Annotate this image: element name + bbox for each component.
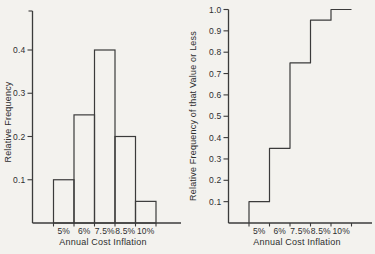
x-tick-label: 7.5%: [290, 226, 310, 236]
frequency-bar: [54, 180, 75, 223]
y-tick-label: 0.7: [209, 69, 221, 79]
y-tick-label: 0.5: [209, 111, 221, 121]
y-tick-label: 0.2: [13, 132, 25, 142]
y-tick-label: 0.1: [209, 197, 221, 207]
frequency-bar: [115, 137, 136, 224]
x-tick-label: 8.5%: [311, 226, 331, 236]
x-tick-label: 8.5%: [115, 226, 135, 236]
y-tick-label: 0.3: [209, 154, 221, 164]
cumulative-step-chart: 0.10.20.30.40.50.60.70.80.91.05%6%7.5%8.…: [209, 5, 372, 237]
cumulative-step-line: [249, 10, 352, 224]
right-y-axis-title: Relative Frequency of that Value or Less: [188, 31, 198, 201]
left-x-axis-title: Annual Cost Inflation: [59, 237, 146, 247]
right-x-axis-title: Annual Cost Inflation: [253, 237, 340, 247]
frequency-bar: [95, 50, 116, 223]
y-tick-label: 0.4: [209, 133, 221, 143]
x-tick-label: 7.5%: [95, 226, 115, 236]
y-tick-label: 0.4: [13, 45, 25, 55]
y-tick-label: 0.2: [209, 175, 221, 185]
y-tick-label: 0.8: [209, 47, 221, 57]
y-tick-label: 0.3: [13, 88, 25, 98]
frequency-bar: [74, 115, 95, 223]
x-tick-label: 5%: [253, 226, 266, 236]
frequency-bar: [136, 201, 157, 223]
y-tick-label: 0.9: [209, 26, 221, 36]
x-tick-label: 6%: [273, 226, 286, 236]
x-tick-label: 10%: [332, 226, 350, 236]
y-tick-label: 0.1: [13, 175, 25, 185]
figure-canvas: 0.10.20.30.45%6%7.5%8.5%10% 0.10.20.30.4…: [0, 0, 375, 254]
left-y-axis-title: Relative Frequency: [3, 81, 13, 162]
x-tick-label: 10%: [137, 226, 155, 236]
x-tick-label: 6%: [78, 226, 91, 236]
y-tick-label: 0.6: [209, 90, 221, 100]
x-tick-label: 5%: [57, 226, 70, 236]
scanned-figure-page: 0.10.20.30.45%6%7.5%8.5%10% 0.10.20.30.4…: [0, 0, 375, 254]
y-tick-label: 1.0: [209, 5, 221, 15]
histogram-chart: 0.10.20.30.45%6%7.5%8.5%10%: [13, 11, 181, 236]
